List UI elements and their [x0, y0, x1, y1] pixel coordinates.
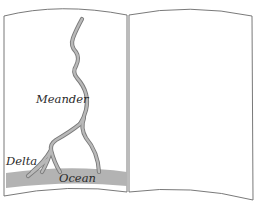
- meander-label: Meander: [35, 92, 90, 106]
- right-page: [129, 9, 253, 200]
- delta-label: Delta: [5, 154, 37, 168]
- river-book-diagram: Meander Delta Ocean: [0, 0, 258, 205]
- ocean-label: Ocean: [59, 171, 96, 185]
